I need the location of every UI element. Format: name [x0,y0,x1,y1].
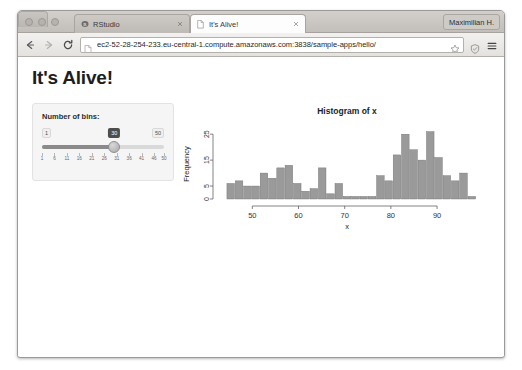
y-axis-tick-label: 5 [203,184,210,188]
slider-tick-label: 31 [114,156,119,161]
histogram-bar [335,183,343,199]
star-icon[interactable] [450,40,460,50]
hamburger-icon[interactable] [486,38,499,51]
slider-tick-label: 26 [102,156,107,161]
histogram-bar [360,196,368,199]
histogram-bar [235,181,243,199]
histogram-bar [410,150,418,199]
address-bar[interactable]: ec2-52-28-254-233.eu-central-1.compute.a… [80,37,464,53]
reload-icon[interactable] [61,38,74,51]
histogram-bar [377,176,385,199]
histogram-bar [285,165,293,199]
histogram-bar [260,173,268,199]
slider-tick-label: 11 [65,156,70,161]
histogram-bar [268,178,276,199]
back-arrow-icon[interactable] [23,38,36,51]
url-text: ec2-52-28-254-233.eu-central-1.compute.a… [97,40,447,49]
forward-arrow-icon[interactable] [42,38,55,51]
histogram-bar [343,196,351,199]
histogram-bar [460,173,468,199]
page-icon [197,20,205,28]
slider-tick-scale: 16111621263136414650 [42,153,164,163]
browser-window: R RStudio It's Alive! [17,10,505,358]
y-axis-tick-label: 15 [203,156,210,164]
x-axis-tick-label: 70 [341,211,349,220]
slider-tick-label: 46 [151,156,156,161]
y-axis-tick-label: 0 [203,197,210,201]
histogram-bar [244,186,252,199]
histogram-bar [277,168,285,199]
slider-tick-label: 36 [127,156,132,161]
histogram-bar [352,196,360,199]
close-icon[interactable] [176,20,184,28]
histogram-bar [435,158,443,199]
profile-label: Maximilian H. [449,18,494,27]
histogram-bar [368,196,376,199]
rstudio-icon: R [81,20,89,28]
histogram-plot: Histogram of x051525Frequency5060708090x [180,103,480,233]
slider-label: Number of bins: [42,112,164,121]
histogram-bar [468,196,476,199]
tab-strip: R RStudio It's Alive! [18,11,504,33]
shiny-layout: Number of bins: 1 30 50 1611162126313641… [32,103,504,233]
slider-tick-label: 21 [89,156,94,161]
histogram-bar [227,183,235,199]
minimize-window-button[interactable] [38,18,46,26]
slider-handle[interactable] [108,141,120,153]
zoom-window-button[interactable] [51,18,59,26]
x-axis-tick-label: 80 [387,211,395,220]
tab-rstudio[interactable]: R RStudio [74,14,190,33]
histogram-bar [302,191,310,199]
slider-tick-label: 1 [41,156,44,161]
slider-bins[interactable] [42,141,164,152]
close-icon[interactable] [292,20,300,28]
histogram-bar [418,160,426,199]
slider-tick-label: 6 [53,156,56,161]
slider-fill [42,145,114,149]
histogram-bar [385,181,393,199]
slider-tick-label: 16 [77,156,82,161]
x-axis-tick-label: 60 [294,211,302,220]
window-controls [25,18,59,26]
histogram-bar [426,132,434,199]
tab-title: It's Alive! [209,20,292,29]
slider-current-value: 30 [108,128,120,138]
histogram-bar [451,181,459,199]
page-viewport: It's Alive! Number of bins: 1 30 50 1611… [18,57,504,356]
slider-value-row: 1 30 50 [42,128,164,139]
profile-button[interactable]: Maximilian H. [443,14,500,30]
histogram-bar [443,176,451,199]
y-axis-label: Frequency [182,146,191,182]
x-axis-tick-label: 90 [433,211,441,220]
histogram-bar [293,183,301,199]
chart-title: Histogram of x [317,106,377,116]
slider-panel: Number of bins: 1 30 50 1611162126313641… [32,103,174,181]
x-axis-label: x [345,222,349,231]
histogram-bar [393,155,401,199]
document-icon [84,40,94,50]
tab-its-alive[interactable]: It's Alive! [190,14,306,33]
histogram-bar [310,189,318,199]
histogram-bar [252,186,260,199]
close-window-button[interactable] [25,18,33,26]
tab-title: RStudio [93,20,176,29]
histogram-bar [327,194,335,199]
x-axis-tick-label: 50 [248,211,256,220]
y-axis-tick-label: 25 [203,130,210,138]
histogram-bar [318,168,326,199]
plot-panel: Histogram of x051525Frequency5060708090x [174,103,504,233]
page-title: It's Alive! [32,67,504,89]
shield-icon[interactable] [470,40,480,50]
slider-max-label: 50 [152,128,164,138]
slider-tick-label: 41 [139,156,144,161]
slider-tick-label: 50 [161,156,166,161]
slider-min-label: 1 [42,128,51,138]
histogram-bar [401,134,409,199]
browser-toolbar: ec2-52-28-254-233.eu-central-1.compute.a… [18,33,504,57]
